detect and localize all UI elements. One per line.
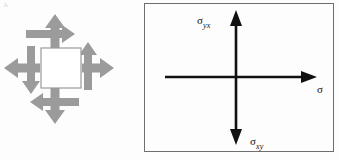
stress-element-diagram bbox=[0, 6, 130, 146]
sigma-subscript-bottom: xy bbox=[256, 142, 264, 151]
horizontal-axis bbox=[165, 71, 317, 83]
sigma-symbol-right: σ bbox=[317, 83, 323, 95]
axis-label-sigma-yx: σyx bbox=[197, 11, 210, 30]
sigma-subscript-top: yx bbox=[203, 21, 211, 30]
stress-element-square bbox=[41, 48, 81, 88]
figure-root: A bbox=[0, 0, 339, 160]
stress-axes-panel: σyx σxy σ bbox=[144, 3, 334, 152]
axis-label-sigma: σ bbox=[317, 80, 323, 99]
axis-label-sigma-xy: σxy bbox=[250, 132, 263, 151]
